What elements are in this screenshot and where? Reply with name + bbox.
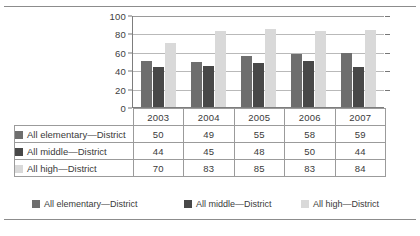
legend-item: All high—District [301,199,379,209]
table-column-header: 2003 [133,109,184,126]
bar [241,56,252,107]
y-axis-tick-label: 40 [115,66,126,77]
chart-legend: All elementary—DistrictAll middle—Distri… [32,199,388,209]
table-row-label-text: All high—District [27,163,97,174]
table-row: All middle—District4445485044 [15,143,386,160]
legend-color-swatch-icon [301,200,309,208]
bar [291,54,302,107]
data-table: 20032004200520062007All elementary—Distr… [14,108,386,177]
table-cell: 55 [234,126,285,143]
bar [365,30,376,107]
legend-item-label: All high—District [313,199,379,209]
table-row-label-text: All elementary—District [27,129,126,140]
bar [341,53,352,107]
bar [253,63,264,107]
table-cell: 48 [234,143,285,160]
y-axis-tick-label: 20 [115,84,126,95]
table-cell: 50 [133,126,184,143]
table-cell: 50 [285,143,336,160]
bar [353,67,364,107]
table-cell: 45 [184,143,235,160]
table-cell: 44 [133,143,184,160]
legend-item-label: All middle—District [196,199,272,209]
bar-group [133,16,183,107]
table-cell: 49 [184,126,235,143]
table-cell: 84 [335,160,386,177]
legend-color-swatch-icon [184,200,192,208]
bar [141,61,152,107]
bar-group [183,16,233,107]
bar-group [334,16,384,107]
y-axis-tick-label: 60 [115,47,126,58]
table-column-header: 2007 [335,109,386,126]
top-divider-rule [4,6,416,7]
series-color-swatch-icon [15,131,23,139]
table-column-header: 2004 [184,109,235,126]
bar [303,61,314,107]
table-cell: 83 [184,160,235,177]
series-color-swatch-icon [15,148,23,156]
bottom-divider-rule [4,219,416,220]
table-row: All elementary—District5049555859 [15,126,386,143]
table-row-label: All high—District [15,160,134,177]
bar-group [233,16,283,107]
chart-figure: 020406080100 20032004200520062007All ele… [0,0,420,236]
bar [153,67,164,107]
y-axis-right-tick [385,34,390,35]
bar [315,31,326,107]
legend-item: All elementary—District [32,199,184,209]
series-color-swatch-icon [15,165,23,173]
table-column-header: 2006 [285,109,336,126]
plot-area-wrapper: 020406080100 [0,16,420,120]
y-axis-right-tick [385,16,390,17]
table-cell: 58 [285,126,336,143]
table-row-label-text: All middle—District [27,146,107,157]
table-cell: 44 [335,143,386,160]
plot-area [132,16,384,108]
y-axis-tick-label: 100 [110,11,126,22]
data-table-body: 20032004200520062007All elementary—Distr… [15,109,386,177]
bar-groups [133,16,384,107]
y-axis: 020406080100 [96,16,132,108]
table-column-header: 2005 [234,109,285,126]
y-axis-right-tick [385,90,390,91]
legend-color-swatch-icon [32,200,40,208]
table-corner-spacer [15,109,134,126]
bar [265,29,276,107]
table-row: All high—District7083858384 [15,160,386,177]
table-cell: 85 [234,160,285,177]
bar [165,43,176,107]
bar [203,66,214,107]
table-cell: 70 [133,160,184,177]
table-row-label: All middle—District [15,143,134,160]
legend-item-label: All elementary—District [44,199,138,209]
bar-group [284,16,334,107]
bar [191,62,202,107]
table-cell: 59 [335,126,386,143]
table-header-row: 20032004200520062007 [15,109,386,126]
table-row-label: All elementary—District [15,126,134,143]
y-axis-tick-label: 80 [115,29,126,40]
data-table-wrapper: 20032004200520062007All elementary—Distr… [14,108,386,177]
y-axis-right-tick [385,53,390,54]
bar [215,31,226,107]
table-cell: 83 [285,160,336,177]
legend-item: All middle—District [184,199,301,209]
y-axis-right-tick [385,71,390,72]
